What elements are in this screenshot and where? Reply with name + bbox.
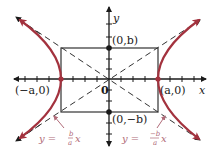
- svg-text:b: b: [69, 130, 74, 138]
- svg-text:x: x: [161, 133, 167, 144]
- left-asymptote-equation: y= b a x: [38, 130, 81, 147]
- top-covertex-point: [106, 45, 112, 51]
- right-asymptote-equation: y= −b a x: [121, 130, 167, 147]
- hyperbola-diagram: y x 0 (0,b) (0,−b) (−a,0) (a,0) y= b a x…: [0, 0, 216, 150]
- origin-label: 0: [101, 84, 109, 97]
- svg-text:y=: y=: [121, 133, 139, 144]
- right-vertex-point: [155, 76, 160, 81]
- right-vertex-label: (a,0): [160, 84, 186, 97]
- svg-text:x: x: [75, 133, 81, 144]
- svg-text:a: a: [153, 139, 157, 147]
- left-vertex-label: (−a,0): [15, 84, 50, 97]
- hyperbola-right-branch-upper: [158, 20, 199, 79]
- bottom-covertex-label: (0,−b): [112, 113, 147, 126]
- right-asymptote-pointer: [157, 116, 165, 128]
- svg-text:a: a: [68, 139, 72, 147]
- left-asymptote-pointer: [54, 116, 64, 128]
- x-axis-label: x: [199, 84, 206, 97]
- hyperbola-left-branch-upper: [20, 20, 61, 79]
- y-axis-label: y: [112, 12, 120, 25]
- svg-text:−b: −b: [150, 130, 161, 138]
- svg-text:y=: y=: [38, 133, 56, 144]
- bottom-covertex-point: [106, 109, 112, 115]
- top-covertex-label: (0,b): [112, 34, 138, 47]
- left-vertex-point: [58, 76, 63, 81]
